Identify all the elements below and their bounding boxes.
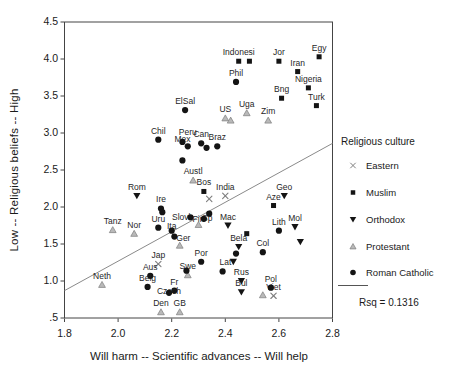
data-point-marker bbox=[291, 224, 298, 230]
data-point-marker bbox=[317, 54, 322, 59]
data-point-label: Iran bbox=[290, 58, 305, 68]
data-point-marker bbox=[351, 163, 356, 168]
data-point-marker bbox=[198, 140, 204, 146]
legend-item-protestant: Protestant bbox=[347, 239, 409, 253]
x-tick-label: 1.8 bbox=[51, 327, 79, 339]
data-point-marker bbox=[214, 143, 220, 149]
data-point-label: Turk bbox=[308, 92, 325, 102]
data-point-label: Mac bbox=[220, 212, 237, 222]
legend-item-label: Muslim bbox=[366, 187, 396, 198]
data-point-marker bbox=[144, 284, 150, 290]
data-point-marker bbox=[133, 193, 140, 199]
data-point-marker bbox=[314, 103, 319, 108]
data-point-marker bbox=[182, 107, 188, 113]
data-point-marker bbox=[260, 249, 266, 255]
data-point-marker bbox=[109, 227, 116, 233]
data-point-marker bbox=[207, 196, 212, 201]
legend-separator-line bbox=[338, 285, 368, 286]
data-point-marker bbox=[206, 211, 212, 217]
y-axis-title: Low -- Religious beliefs -- High bbox=[8, 89, 20, 252]
data-point-label: Jap bbox=[151, 250, 165, 260]
data-point-marker bbox=[190, 177, 197, 183]
data-point-marker bbox=[236, 59, 241, 64]
data-point-marker bbox=[306, 85, 311, 90]
data-point-marker bbox=[187, 214, 193, 220]
data-point-marker bbox=[351, 190, 356, 195]
data-point-label: Jor bbox=[273, 47, 285, 57]
x-tick-label: 2.2 bbox=[158, 327, 186, 339]
data-point-marker bbox=[220, 268, 226, 274]
data-point-label: Phil bbox=[229, 68, 243, 78]
data-point-marker bbox=[183, 268, 189, 274]
data-point-label: ElSal bbox=[175, 96, 195, 106]
data-point-marker bbox=[265, 117, 272, 123]
data-point-label: Lith bbox=[272, 217, 286, 227]
data-point-label: Den bbox=[153, 298, 169, 308]
data-point-label: Nor bbox=[127, 220, 141, 230]
data-point-marker bbox=[201, 189, 206, 194]
data-point-marker bbox=[224, 223, 231, 229]
data-point-marker bbox=[276, 228, 282, 234]
y-tick-label: 3.0 bbox=[26, 126, 58, 138]
legend-item-roman-catholic: Roman Catholic bbox=[347, 265, 434, 279]
data-point-marker bbox=[247, 59, 252, 64]
data-point-label: Bul bbox=[235, 278, 247, 288]
y-tick-label: 4.0 bbox=[26, 52, 58, 64]
data-point-label: Belg bbox=[139, 273, 156, 283]
orthodox-triangle-down-marker-icon bbox=[347, 213, 359, 225]
data-point-marker bbox=[185, 143, 191, 149]
data-point-label: Mol bbox=[288, 213, 302, 223]
data-point-label: Rom bbox=[128, 182, 146, 192]
data-point-label: Nigeria bbox=[295, 74, 322, 84]
x-tick-label: 2.6 bbox=[265, 327, 293, 339]
data-point-label: Chil bbox=[151, 126, 166, 136]
data-point-label: US bbox=[219, 104, 231, 114]
data-point-marker bbox=[350, 217, 356, 223]
x-tick-label: 2.4 bbox=[211, 327, 239, 339]
muslim-square-marker-icon bbox=[347, 186, 359, 198]
data-point-label: Lat bbox=[219, 257, 231, 267]
data-point-marker bbox=[155, 137, 161, 143]
data-point-marker bbox=[281, 193, 288, 199]
legend-item-orthodox: Orthodox bbox=[347, 212, 405, 226]
data-point-marker bbox=[238, 289, 245, 295]
data-point-label: Indonesi bbox=[223, 47, 255, 57]
y-tick-label: 3.5 bbox=[26, 89, 58, 101]
eastern-x-marker-icon bbox=[347, 159, 359, 171]
data-point-marker bbox=[222, 115, 229, 121]
data-point-label: Austl bbox=[184, 166, 203, 176]
data-point-marker bbox=[233, 251, 239, 257]
data-point-label: GB bbox=[174, 298, 187, 308]
data-point-label: Can bbox=[193, 129, 209, 139]
legend-item-muslim: Muslim bbox=[347, 185, 396, 199]
data-point-marker bbox=[198, 259, 204, 265]
data-point-marker bbox=[131, 230, 138, 236]
data-point-marker bbox=[176, 309, 183, 315]
data-point-marker bbox=[99, 281, 106, 287]
data-point-label: Ire bbox=[156, 194, 166, 204]
data-point-label: Rus bbox=[234, 267, 249, 277]
legend-item-label: Eastern bbox=[366, 160, 399, 171]
data-point-label: Pol bbox=[265, 274, 277, 284]
y-tick-label: 1.5 bbox=[26, 237, 58, 249]
y-tick-label: 4.5 bbox=[26, 15, 58, 27]
data-point-marker bbox=[243, 110, 250, 116]
data-point-marker bbox=[158, 309, 165, 315]
data-point-label: Col bbox=[256, 238, 269, 248]
data-point-marker bbox=[201, 216, 207, 222]
data-point-marker bbox=[235, 244, 242, 250]
data-point-marker bbox=[259, 292, 266, 298]
data-point-marker bbox=[155, 225, 161, 231]
legend-item-eastern: Eastern bbox=[347, 158, 399, 172]
data-point-label: Uga bbox=[239, 99, 255, 109]
legend-item-label: Protestant bbox=[366, 241, 409, 252]
data-point-marker bbox=[233, 79, 239, 85]
protestant-triangle-up-marker-icon bbox=[347, 240, 359, 252]
data-point-label: Bos bbox=[197, 177, 212, 187]
y-tick-label: 1.0 bbox=[26, 274, 58, 286]
y-tick-label: .5 bbox=[26, 311, 58, 323]
data-point-marker bbox=[223, 193, 228, 198]
data-point-label: Por bbox=[195, 248, 208, 258]
data-point-label: Ger bbox=[176, 233, 190, 243]
x-axis-title: Will harm -- Scientific advances -- Will… bbox=[90, 350, 308, 362]
